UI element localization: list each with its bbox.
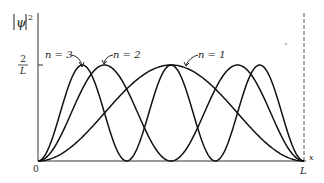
curve-n1: [38, 65, 304, 161]
annotation-n3: n = 3: [45, 49, 73, 60]
curve-n3: [38, 65, 304, 161]
xtick-origin: 0: [33, 164, 39, 174]
arrow-n2: [104, 55, 113, 63]
annotation-n1: n = 1: [198, 49, 226, 60]
speck: [285, 43, 288, 46]
xtick-L: L: [299, 165, 307, 176]
ylabel-superscript: 2: [28, 13, 33, 22]
annotation-n2: n = 2: [113, 49, 141, 60]
ylabel-psi: ψ: [16, 15, 27, 30]
ytick-denominator: L: [19, 66, 26, 76]
chart: ψ 2 2 L 0 L x n = 3 n = 2 n = 1: [0, 0, 324, 183]
ytick-numerator: 2: [20, 54, 26, 64]
xaxis-label: x: [309, 153, 314, 162]
curve-n2: [38, 65, 304, 161]
